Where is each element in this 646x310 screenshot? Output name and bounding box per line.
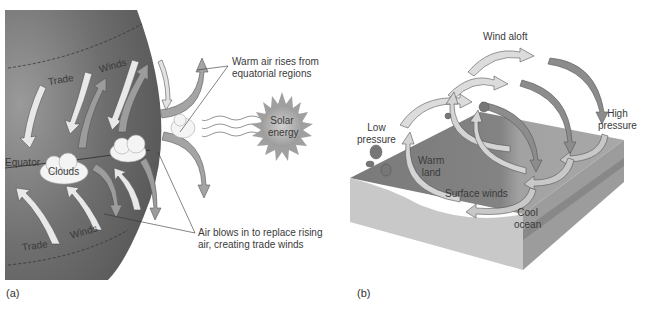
label-solar-energy: Solar energy	[268, 115, 296, 139]
label-clouds: Clouds	[48, 166, 79, 178]
label-wind-aloft: Wind aloft	[483, 31, 527, 43]
solar-rays	[202, 116, 260, 137]
panel-label-a: (a)	[6, 287, 19, 299]
label-high-pressure: High pressure	[598, 108, 637, 132]
label-low-pressure: Low pressure	[357, 122, 396, 146]
cloud-right	[171, 114, 195, 138]
label-air-blows-in: Air blows in to replace rising air, crea…	[198, 227, 323, 251]
label-surface-winds: Surface winds	[445, 188, 508, 200]
label-equator: Equator	[5, 157, 40, 169]
diagram-canvas	[0, 0, 646, 310]
label-warm-land: Warm land	[418, 155, 444, 179]
label-warm-air-rises: Warm air rises from equatorial regions	[232, 56, 319, 80]
inflow-arrows	[158, 60, 172, 110]
panel-label-b: (b)	[357, 287, 370, 299]
label-cool-ocean: Cool ocean	[514, 207, 541, 231]
